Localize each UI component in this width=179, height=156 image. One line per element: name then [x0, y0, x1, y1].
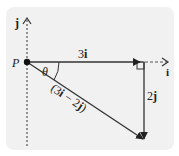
- vector-3i-label: 3i: [78, 47, 88, 61]
- i-axis-label: i: [166, 66, 169, 78]
- vector-2j-label: 2j: [147, 89, 157, 103]
- point-p-label: P: [11, 56, 20, 70]
- angle-arc: [54, 62, 59, 80]
- angle-label: θ: [42, 65, 48, 79]
- j-axis: [23, 18, 31, 146]
- vector-diagram: P j i θ 3i 2j (3i − 2j): [0, 0, 179, 156]
- j-axis-label: j: [14, 16, 19, 30]
- point-p: [24, 59, 30, 65]
- right-angle-marker: [137, 62, 144, 69]
- vector-resultant-label: (3i − 2j): [48, 81, 89, 115]
